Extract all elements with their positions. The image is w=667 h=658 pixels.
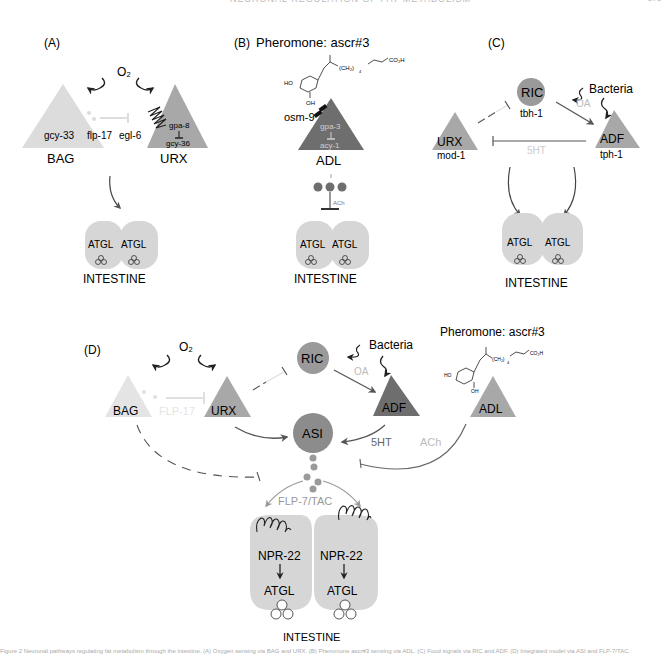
intestine-label: INTESTINE: [505, 276, 568, 290]
flp17-label: flp-17: [87, 130, 112, 141]
intestine-label: INTESTINE: [294, 272, 357, 286]
ric-label-d: RIC: [301, 351, 323, 366]
urx-label-d: URX: [211, 404, 236, 418]
intestine-b: ATGL ATGL INTESTINE: [294, 221, 369, 286]
atgl-label-d: ATGL: [264, 584, 295, 598]
ascr3-structure-icon: [300, 55, 388, 98]
intestine-d: NPR-22 NPR-22 ATGL ATGL INTESTINE: [250, 506, 378, 643]
figure-canvas: (A) O₂ gcy-33 BAG flp-17 egl-6 gpa-8 gcy…: [0, 0, 667, 658]
5ht-label-d: 5HT: [371, 436, 392, 448]
panel-c: (C) RIC tbh-1 Bacteria OA URX mod-1 ADF …: [432, 36, 640, 290]
lipid-droplet-icon: [271, 600, 356, 619]
chem-oh2: OH: [306, 100, 315, 106]
vesicle-dot: [92, 117, 96, 121]
urx-label: URX: [160, 151, 188, 166]
svg-text:HO: HO: [444, 372, 452, 378]
ach-label-d: ACh: [420, 436, 441, 448]
tph1-label: tph-1: [600, 149, 623, 160]
atgl-label-d: ATGL: [327, 584, 358, 598]
urx-ric-inhibit: [478, 112, 496, 123]
flp17-label-d: FLP-17: [159, 405, 195, 417]
atgl-label: ATGL: [88, 239, 114, 250]
ach-label: ACh: [333, 200, 345, 206]
pheromone-title: Pheromone: ascr#3: [256, 35, 369, 50]
urx-to-intestine-arrow: [110, 176, 120, 208]
acy1-label: acy-1: [320, 141, 340, 150]
intestine-label: INTESTINE: [83, 272, 146, 286]
o2-to-urx-arrow: [136, 78, 153, 90]
ric-label: RIC: [521, 85, 543, 100]
atgl-label: ATGL: [332, 239, 358, 250]
adl-label-d: ADL: [479, 402, 503, 416]
panel-b: (B) Pheromone: ascr#3 (CH₂) 4 CO₂H HO OH…: [234, 35, 405, 286]
flp7-vesicles: [304, 455, 322, 493]
gpa3-label: gpa-3: [320, 122, 341, 131]
osm9-label: osm-9: [284, 111, 315, 123]
bag-label: BAG: [47, 151, 74, 166]
bag-asi-inhibit: [137, 425, 259, 477]
o2-label-d: O₂: [179, 340, 193, 354]
svg-text:4: 4: [507, 360, 510, 365]
atgl-label: ATGL: [545, 237, 571, 248]
intestine-c: ATGL ATGL INTESTINE: [502, 213, 583, 290]
adl-label: ADL: [316, 153, 341, 168]
figure-caption: Figure 2 Neuronal pathways regulating fa…: [0, 648, 667, 654]
flp7-label: FLP-7/TAC: [278, 495, 332, 507]
5ht-label: 5HT: [527, 145, 546, 156]
panel-b-label: (B): [234, 36, 250, 50]
chem-acid: CO₂H: [389, 57, 405, 63]
urx-to-asi-arrow: [235, 427, 287, 438]
oa-label: OA: [576, 98, 591, 109]
svg-text:4: 4: [359, 69, 362, 74]
o2-label: O₂: [117, 65, 131, 79]
gpa8-label: gpa-8: [169, 121, 190, 130]
o2-to-bag-arrow: [153, 355, 170, 367]
adf-label-c: ADF: [600, 132, 624, 146]
gcy36-label: gcy-36: [166, 139, 191, 148]
adf-label-d: ADF: [382, 401, 406, 415]
svg-text:OH: OH: [471, 388, 479, 394]
asi-label: ASI: [302, 426, 323, 441]
bacteria-to-ric-arrow-d: [348, 345, 360, 357]
bacteria-to-adf-arrow: [602, 98, 608, 118]
panel-d: (D) O₂ BAG FLP-17 URX RIC Bacteria OA AD…: [84, 325, 545, 643]
bag-label-d: BAG: [113, 404, 138, 418]
chem-oh1: HO: [284, 80, 293, 86]
intestine-a: ATGL ATGL INTESTINE: [83, 221, 158, 286]
intestine-label-d: INTESTINE: [283, 631, 340, 643]
npr22-label: NPR-22: [258, 549, 301, 563]
egl6-label: egl-6: [119, 130, 142, 141]
atgl-label: ATGL: [300, 239, 326, 250]
tbh1-label: tbh-1: [520, 108, 543, 119]
chem-chain: (CH₂): [339, 65, 354, 71]
svg-text:CO₂H: CO₂H: [530, 350, 543, 356]
atgl-label: ATGL: [507, 237, 533, 248]
panel-a: (A) O₂ gcy-33 BAG flp-17 egl-6 gpa-8 gcy…: [22, 36, 208, 286]
ach-vesicles: [314, 183, 347, 192]
npr22-label: NPR-22: [320, 549, 363, 563]
svg-text:(CH₂): (CH₂): [492, 356, 505, 362]
bacteria-to-adf-arrow-d: [381, 356, 387, 376]
panel-a-label: (A): [44, 36, 60, 50]
to-intestine-arrow: [564, 167, 576, 215]
o2-to-urx-arrow: [198, 355, 215, 367]
panel-d-label: (D): [84, 343, 101, 357]
atgl-label: ATGL: [121, 239, 147, 250]
bag-gene: gcy-33: [44, 130, 74, 141]
mod1-label: mod-1: [437, 150, 466, 161]
bacteria-label-d: Bacteria: [369, 338, 413, 352]
urx-label-c: URX: [437, 135, 462, 149]
oa-label-d: OA: [354, 366, 369, 377]
vesicle-dot: [87, 111, 91, 115]
to-intestine-arrow: [508, 167, 520, 215]
bacteria-label: Bacteria: [589, 82, 633, 96]
panel-c-label: (C): [488, 36, 505, 50]
o2-to-bag-arrow: [88, 78, 105, 90]
pheromone-title-d: Pheromone: ascr#3: [440, 325, 545, 339]
urx-ric-inhibit-d: [253, 382, 266, 390]
